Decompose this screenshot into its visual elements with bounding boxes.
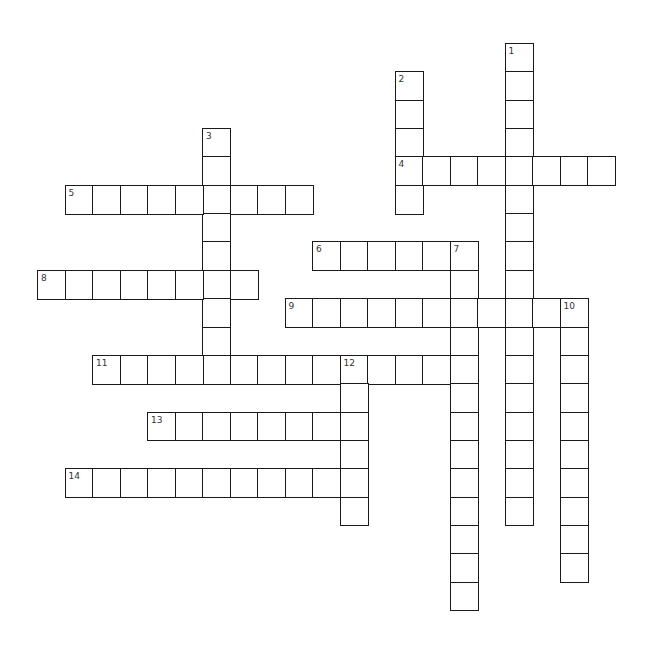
letter-input[interactable] <box>561 299 588 327</box>
letter-input[interactable] <box>203 157 230 185</box>
letter-input[interactable] <box>506 214 533 242</box>
letter-input[interactable] <box>148 271 175 299</box>
letter-input[interactable] <box>451 384 478 412</box>
crossword-cell[interactable] <box>422 298 451 328</box>
letter-input[interactable] <box>231 186 258 214</box>
crossword-cell[interactable] <box>505 213 534 243</box>
letter-input[interactable] <box>148 186 175 214</box>
letter-input[interactable] <box>286 469 313 497</box>
crossword-cell[interactable]: 10 <box>560 298 589 328</box>
letter-input[interactable] <box>451 356 478 384</box>
crossword-cell[interactable] <box>312 298 341 328</box>
letter-input[interactable] <box>286 186 313 214</box>
crossword-cell[interactable] <box>450 327 479 357</box>
crossword-cell[interactable] <box>450 412 479 442</box>
letter-input[interactable] <box>93 271 120 299</box>
letter-input[interactable] <box>506 129 533 157</box>
crossword-cell[interactable] <box>257 185 286 215</box>
crossword-cell[interactable] <box>202 468 231 498</box>
crossword-cell[interactable] <box>285 412 314 442</box>
crossword-cell[interactable] <box>477 298 506 328</box>
letter-input[interactable] <box>286 299 313 327</box>
letter-input[interactable] <box>423 299 450 327</box>
crossword-cell[interactable] <box>395 100 424 130</box>
crossword-cell[interactable] <box>175 270 204 300</box>
letter-input[interactable] <box>313 242 340 270</box>
crossword-cell[interactable] <box>395 298 424 328</box>
letter-input[interactable] <box>121 469 148 497</box>
crossword-cell[interactable] <box>505 71 534 101</box>
crossword-cell[interactable] <box>175 468 204 498</box>
crossword-cell[interactable] <box>505 412 534 442</box>
crossword-cell[interactable] <box>230 468 259 498</box>
letter-input[interactable] <box>203 299 230 327</box>
letter-input[interactable] <box>313 299 340 327</box>
letter-input[interactable] <box>396 186 423 214</box>
crossword-cell[interactable] <box>147 468 176 498</box>
crossword-cell[interactable] <box>450 497 479 527</box>
crossword-cell[interactable] <box>202 185 231 215</box>
letter-input[interactable] <box>203 356 230 384</box>
crossword-cell[interactable] <box>532 298 561 328</box>
crossword-cell[interactable] <box>450 525 479 555</box>
crossword-cell[interactable] <box>450 468 479 498</box>
letter-input[interactable] <box>451 554 478 582</box>
crossword-cell[interactable] <box>202 355 231 385</box>
letter-input[interactable] <box>93 356 120 384</box>
letter-input[interactable] <box>451 299 478 327</box>
crossword-cell[interactable] <box>230 412 259 442</box>
letter-input[interactable] <box>451 271 478 299</box>
crossword-cell[interactable] <box>505 468 534 498</box>
crossword-cell[interactable] <box>560 412 589 442</box>
crossword-cell[interactable] <box>450 156 479 186</box>
crossword-cell[interactable] <box>257 412 286 442</box>
crossword-cell[interactable] <box>450 298 479 328</box>
crossword-cell[interactable] <box>422 241 451 271</box>
letter-input[interactable] <box>451 498 478 526</box>
letter-input[interactable] <box>313 356 340 384</box>
letter-input[interactable] <box>203 129 230 157</box>
letter-input[interactable] <box>561 498 588 526</box>
crossword-cell[interactable] <box>340 497 369 527</box>
crossword-cell[interactable]: 3 <box>202 128 231 158</box>
crossword-cell[interactable] <box>560 553 589 583</box>
letter-input[interactable] <box>341 384 368 412</box>
crossword-cell[interactable] <box>450 270 479 300</box>
crossword-cell[interactable] <box>175 185 204 215</box>
crossword-cell[interactable]: 14 <box>65 468 94 498</box>
letter-input[interactable] <box>506 328 533 356</box>
letter-input[interactable] <box>258 469 285 497</box>
letter-input[interactable] <box>561 328 588 356</box>
letter-input[interactable] <box>561 356 588 384</box>
letter-input[interactable] <box>478 299 505 327</box>
letter-input[interactable] <box>506 498 533 526</box>
crossword-cell[interactable] <box>340 468 369 498</box>
crossword-cell[interactable] <box>450 355 479 385</box>
letter-input[interactable] <box>341 441 368 469</box>
letter-input[interactable] <box>451 413 478 441</box>
crossword-cell[interactable]: 13 <box>147 412 176 442</box>
letter-input[interactable] <box>451 526 478 554</box>
crossword-cell[interactable] <box>202 156 231 186</box>
crossword-cell[interactable] <box>202 298 231 328</box>
crossword-cell[interactable] <box>340 440 369 470</box>
crossword-cell[interactable] <box>395 185 424 215</box>
crossword-cell[interactable] <box>120 355 149 385</box>
letter-input[interactable] <box>561 384 588 412</box>
crossword-cell[interactable] <box>202 270 231 300</box>
crossword-cell[interactable] <box>312 468 341 498</box>
crossword-cell[interactable] <box>92 270 121 300</box>
crossword-cell[interactable] <box>340 383 369 413</box>
crossword-cell[interactable] <box>230 185 259 215</box>
letter-input[interactable] <box>561 469 588 497</box>
crossword-cell[interactable] <box>450 582 479 612</box>
crossword-cell[interactable] <box>285 355 314 385</box>
letter-input[interactable] <box>258 186 285 214</box>
crossword-cell[interactable] <box>340 298 369 328</box>
letter-input[interactable] <box>203 186 230 214</box>
crossword-cell[interactable] <box>560 327 589 357</box>
crossword-cell[interactable] <box>175 412 204 442</box>
crossword-cell[interactable] <box>257 468 286 498</box>
crossword-cell[interactable] <box>505 156 534 186</box>
crossword-cell[interactable] <box>147 185 176 215</box>
